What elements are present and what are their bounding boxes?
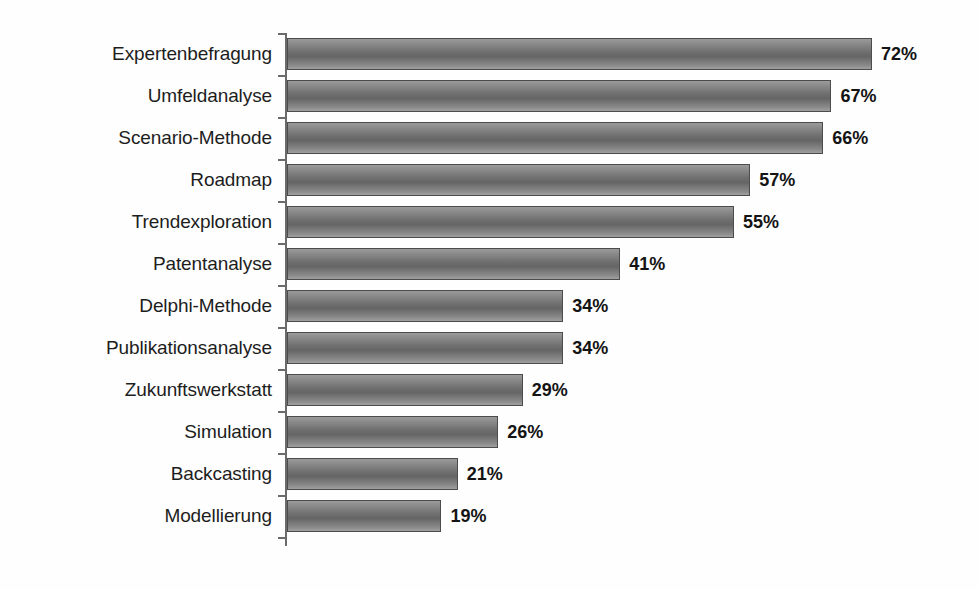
bar-value-label: 66% (832, 122, 868, 154)
bar-value-label: 72% (881, 38, 917, 70)
bar (287, 500, 441, 532)
category-label: Trendexploration (27, 201, 272, 243)
bar-row: Roadmap57% (0, 159, 978, 201)
bar-row: Delphi-Methode34% (0, 285, 978, 327)
bar (287, 206, 734, 238)
bar-row: Backcasting21% (0, 453, 978, 495)
bar (287, 248, 620, 280)
category-label: Modellierung (27, 495, 272, 537)
bar (287, 290, 563, 322)
bar-value-label: 34% (572, 290, 608, 322)
bar (287, 332, 563, 364)
bar-value-label: 26% (507, 416, 543, 448)
bar-row: Zukunftswerkstatt29% (0, 369, 978, 411)
category-label: Backcasting (27, 453, 272, 495)
category-label: Scenario-Methode (27, 117, 272, 159)
bar-value-label: 41% (629, 248, 665, 280)
bar-value-label: 34% (572, 332, 608, 364)
bar-value-label: 55% (743, 206, 779, 238)
bar (287, 80, 831, 112)
bar-row: Expertenbefragung72% (0, 33, 978, 75)
bar-row: Modellierung19% (0, 495, 978, 537)
bar-row: Umfeldanalyse67% (0, 75, 978, 117)
plot-area: Expertenbefragung72%Umfeldanalyse67%Scen… (0, 0, 978, 590)
bar-value-label: 21% (467, 458, 503, 490)
bar (287, 164, 750, 196)
bar-value-label: 29% (532, 374, 568, 406)
bar (287, 374, 523, 406)
bar-value-label: 19% (450, 500, 486, 532)
category-label: Expertenbefragung (27, 33, 272, 75)
bar (287, 416, 498, 448)
category-label: Umfeldanalyse (27, 75, 272, 117)
bar (287, 458, 458, 490)
bar-row: Simulation26% (0, 411, 978, 453)
bar-row: Publikationsanalyse34% (0, 327, 978, 369)
category-label: Roadmap (27, 159, 272, 201)
category-label: Delphi-Methode (27, 285, 272, 327)
bar (287, 38, 872, 70)
category-label: Publikationsanalyse (27, 327, 272, 369)
category-label: Zukunftswerkstatt (27, 369, 272, 411)
bar-value-label: 67% (840, 80, 876, 112)
category-label: Simulation (27, 411, 272, 453)
y-axis-tick (278, 537, 286, 539)
bar-row: Patentanalyse41% (0, 243, 978, 285)
bar-row: Scenario-Methode66% (0, 117, 978, 159)
bar-chart: Expertenbefragung72%Umfeldanalyse67%Scen… (0, 0, 978, 590)
bar-value-label: 57% (759, 164, 795, 196)
category-label: Patentanalyse (27, 243, 272, 285)
bar-row: Trendexploration55% (0, 201, 978, 243)
bar (287, 122, 823, 154)
